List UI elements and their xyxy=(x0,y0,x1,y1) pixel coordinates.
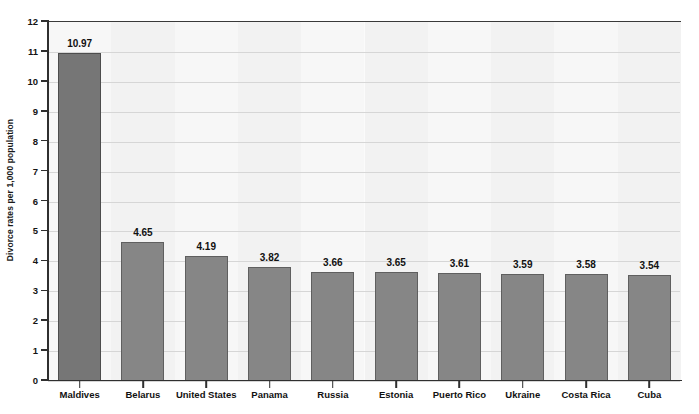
y-axis-tick xyxy=(41,200,48,202)
bar-ukraine[interactable] xyxy=(501,274,544,381)
bar-puerto-rico[interactable] xyxy=(438,273,481,381)
y-axis-tick xyxy=(41,230,48,232)
x-axis-label-costa-rica: Costa Rica xyxy=(561,389,610,400)
x-axis-tick xyxy=(585,381,587,388)
gridline xyxy=(48,142,680,143)
x-axis-tick xyxy=(649,381,651,388)
x-axis-tick xyxy=(395,381,397,388)
bar-value-label: 4.65 xyxy=(133,227,152,238)
x-axis-label-ukraine: Ukraine xyxy=(505,389,540,400)
x-axis-label-belarus: Belarus xyxy=(126,389,161,400)
bar-value-label: 3.59 xyxy=(513,259,532,270)
x-axis-tick xyxy=(522,381,524,388)
x-axis-label-estonia: Estonia xyxy=(379,389,413,400)
bar-estonia[interactable] xyxy=(375,272,418,381)
y-axis-tick-label: 1 xyxy=(0,345,38,356)
x-axis-tick xyxy=(269,381,271,388)
y-axis-tick xyxy=(41,170,48,172)
y-axis-tick-label: 8 xyxy=(0,135,38,146)
x-axis-label-cuba: Cuba xyxy=(637,389,661,400)
gridline xyxy=(48,52,680,53)
y-axis-tick-label: 5 xyxy=(0,225,38,236)
y-axis-tick xyxy=(41,50,48,52)
y-axis-tick-label: 2 xyxy=(0,315,38,326)
y-axis-tick xyxy=(41,260,48,262)
y-axis-tick xyxy=(41,319,48,321)
x-axis-label-maldives: Maldives xyxy=(60,389,100,400)
y-axis-tick-label: 10 xyxy=(0,75,38,86)
plot-area xyxy=(48,21,681,380)
bar-value-label: 3.65 xyxy=(386,257,405,268)
gridline xyxy=(48,172,680,173)
y-axis-tick xyxy=(41,290,48,292)
y-axis-tick xyxy=(41,349,48,351)
bar-value-label: 3.58 xyxy=(576,259,595,270)
bar-value-label: 3.61 xyxy=(450,258,469,269)
x-axis-label-russia: Russia xyxy=(317,389,348,400)
bar-costa-rica[interactable] xyxy=(565,274,608,381)
bar-belarus[interactable] xyxy=(121,242,164,381)
bar-united-states[interactable] xyxy=(185,256,228,381)
y-axis-tick-label: 11 xyxy=(0,45,38,56)
x-axis-tick xyxy=(332,381,334,388)
x-axis-label-puerto-rico: Puerto Rico xyxy=(433,389,486,400)
bar-value-label: 10.97 xyxy=(67,38,92,49)
bar-russia[interactable] xyxy=(311,272,354,381)
y-axis-tick-label: 9 xyxy=(0,105,38,116)
x-axis-tick xyxy=(142,381,144,388)
bar-value-label: 3.54 xyxy=(640,260,659,271)
x-axis-tick xyxy=(79,381,81,388)
bar-value-label: 3.66 xyxy=(323,257,342,268)
bar-value-label: 4.19 xyxy=(197,241,216,252)
divorce-rates-bar-chart: Divorce rates per 1,000 population 01234… xyxy=(0,0,699,414)
gridline xyxy=(48,112,680,113)
y-axis-tick-label: 12 xyxy=(0,16,38,27)
gridline xyxy=(48,82,680,83)
x-axis-label-united-states: United States xyxy=(176,389,237,400)
gridline xyxy=(48,202,680,203)
y-axis-tick xyxy=(41,80,48,82)
y-axis-tick-label: 4 xyxy=(0,255,38,266)
bar-cuba[interactable] xyxy=(628,275,671,381)
y-axis-tick-label: 0 xyxy=(0,375,38,386)
y-axis-tick xyxy=(41,379,48,381)
y-axis-tick xyxy=(41,140,48,142)
y-axis-tick xyxy=(41,20,48,22)
bar-value-label: 3.82 xyxy=(260,252,279,263)
bar-maldives[interactable] xyxy=(58,53,101,381)
bar-panama[interactable] xyxy=(248,267,291,381)
x-axis-tick xyxy=(205,381,207,388)
y-axis-tick-label: 6 xyxy=(0,195,38,206)
y-axis-tick xyxy=(41,110,48,112)
y-axis-tick-label: 7 xyxy=(0,165,38,176)
y-axis-tick-label: 3 xyxy=(0,285,38,296)
x-axis-tick xyxy=(459,381,461,388)
x-axis-label-panama: Panama xyxy=(251,389,287,400)
